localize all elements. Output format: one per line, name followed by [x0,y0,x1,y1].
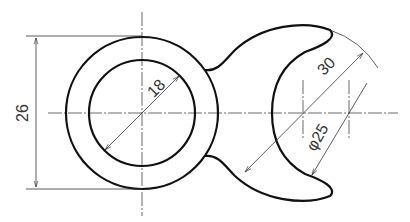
dimension-text-30: 30 [314,54,339,79]
dimension-line-30 [245,53,363,172]
technical-drawing: 26 18 30 φ25 [0,0,410,222]
dimension-text-26: 26 [14,104,31,122]
dimension-text-18: 18 [144,76,169,101]
